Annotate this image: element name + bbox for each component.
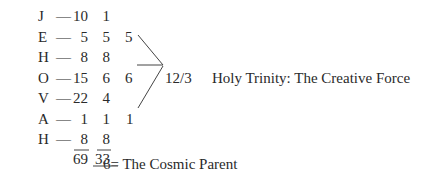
line-from-5 [138,35,163,65]
connector-lines [0,0,428,177]
line-from-1 [138,66,163,108]
